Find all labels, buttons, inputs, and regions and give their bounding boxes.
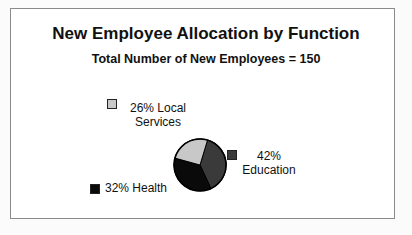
legend-label-health: 32% Health: [105, 181, 167, 195]
legend-swatch-health: [90, 184, 100, 194]
pie-chart: [0, 0, 412, 235]
legend-swatch-local-services: [107, 99, 117, 109]
legend-swatch-education: [227, 150, 237, 160]
legend-label-education: 42% Education: [238, 149, 300, 177]
legend-label-local-services: 26% Local Services: [118, 101, 198, 129]
